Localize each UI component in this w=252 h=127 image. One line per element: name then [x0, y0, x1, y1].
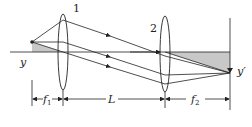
diagram-canvas: 1 2 y y′ f1 L f2 — [0, 0, 252, 127]
two-lens-diagram: 1 2 y y′ f1 L f2 — [0, 0, 252, 127]
f1-label: f1 — [42, 93, 52, 107]
f2-label: f2 — [190, 93, 200, 107]
object-point — [30, 40, 34, 44]
image-label: y′ — [236, 65, 246, 78]
lens-1-label: 1 — [73, 2, 80, 15]
lens-2-label: 2 — [150, 22, 157, 35]
L-label: L — [107, 93, 115, 106]
object-label: y — [19, 56, 27, 69]
lens-2 — [160, 16, 170, 92]
